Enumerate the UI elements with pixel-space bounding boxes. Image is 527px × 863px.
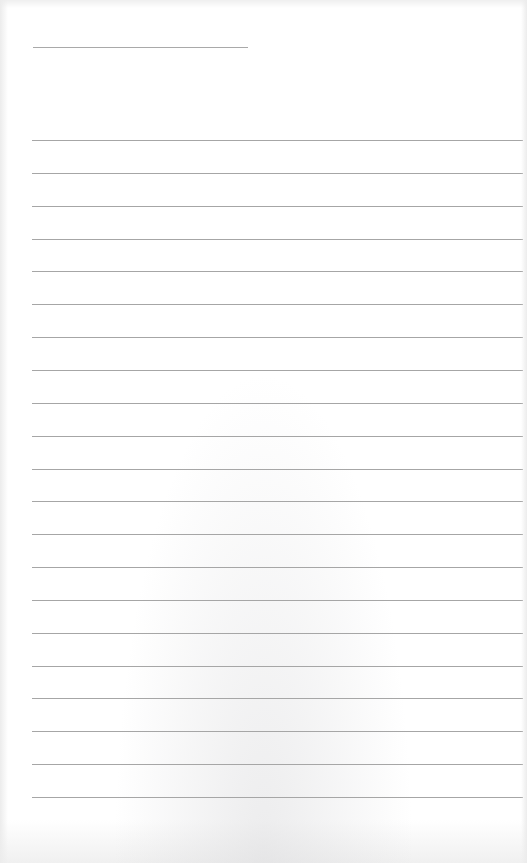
title-underline	[33, 47, 248, 48]
ruled-line	[32, 304, 523, 305]
ruled-line	[32, 633, 523, 634]
ruled-line	[32, 600, 523, 601]
ruled-line	[32, 534, 523, 535]
ruled-line	[32, 764, 523, 765]
ruled-line	[32, 501, 523, 502]
ruled-line	[32, 271, 523, 272]
ruled-line	[32, 173, 523, 174]
ruled-line	[32, 337, 523, 338]
ruled-line	[32, 698, 523, 699]
ruled-line	[32, 206, 523, 207]
ruled-line	[32, 797, 523, 798]
ruled-line	[32, 370, 523, 371]
ruled-line	[32, 436, 523, 437]
ruled-line	[32, 567, 523, 568]
ruled-line	[32, 403, 523, 404]
ruled-line	[32, 239, 523, 240]
lined-paper-sheet	[0, 0, 527, 863]
ruled-line	[32, 140, 523, 141]
ruled-line	[32, 666, 523, 667]
ruled-line	[32, 469, 523, 470]
ruled-line	[32, 731, 523, 732]
